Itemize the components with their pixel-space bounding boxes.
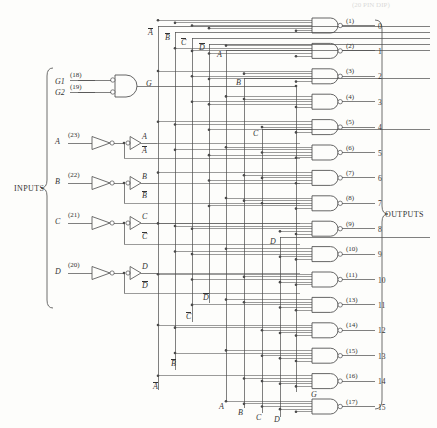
output-index-0: 0 bbox=[378, 22, 382, 31]
output-pin-11: (13) bbox=[346, 296, 358, 304]
faint-title: (20 PIN DIP) bbox=[352, 1, 390, 9]
output-pin-6: (7) bbox=[346, 169, 354, 177]
bus-label-bottom-b-bar: B bbox=[171, 359, 176, 368]
input-pin-b: (22) bbox=[68, 171, 80, 179]
bus-label-bottom-c-bar: C bbox=[186, 312, 191, 321]
output-pin-2: (3) bbox=[346, 67, 354, 75]
output-pin-4: (5) bbox=[346, 118, 354, 126]
input-pin-c: (21) bbox=[68, 211, 80, 219]
bus-label-bottom-a-bar: A bbox=[153, 382, 158, 391]
output-index-14: 14 bbox=[378, 377, 386, 386]
bus-label-foot-c: C bbox=[256, 414, 261, 422]
bus-label-top-c-bar: C bbox=[181, 38, 186, 47]
output-pin-3: (4) bbox=[346, 93, 354, 101]
signal-label-d-comp: D bbox=[142, 281, 148, 290]
input-pin-d: (20) bbox=[68, 261, 80, 269]
bus-label-foot-d: D bbox=[274, 416, 280, 424]
bus-label-top-d-bar: D bbox=[199, 43, 205, 52]
signal-label-c-true: C bbox=[142, 213, 147, 221]
output-pin-13: (15) bbox=[346, 347, 358, 355]
outputs-group-label: OUTPUTS bbox=[385, 210, 424, 219]
bus-label-foot-b: B bbox=[238, 409, 243, 417]
logic-diagram: (20 PIN DIP) INPUTS OUTPUTS G1 (18) G2 (… bbox=[0, 0, 437, 428]
signal-label-b-comp: B bbox=[142, 191, 147, 200]
output-index-8: 8 bbox=[378, 225, 382, 234]
input-label-c: C bbox=[55, 218, 60, 226]
input-label-b: B bbox=[55, 178, 60, 186]
input-pin-g2: (19) bbox=[70, 83, 82, 91]
input-pin-a: (23) bbox=[68, 131, 80, 139]
output-index-7: 7 bbox=[378, 199, 382, 208]
inputs-group-label: INPUTS bbox=[14, 184, 44, 193]
output-index-2: 2 bbox=[378, 72, 382, 81]
output-index-9: 9 bbox=[378, 250, 382, 259]
output-pin-9: (10) bbox=[346, 245, 358, 253]
signal-label-b-true: B bbox=[142, 173, 147, 181]
signal-label-a-comp: A bbox=[142, 146, 147, 155]
signal-label-a-true: A bbox=[142, 133, 147, 141]
output-pin-0: (1) bbox=[346, 17, 354, 25]
circuit-wiring bbox=[0, 0, 437, 428]
signal-label-c-comp: C bbox=[142, 232, 147, 241]
output-pin-8: (9) bbox=[346, 220, 354, 228]
output-pin-14: (16) bbox=[346, 372, 358, 380]
output-index-1: 1 bbox=[378, 47, 382, 56]
output-index-12: 12 bbox=[378, 326, 386, 335]
bus-label-enable-g: G bbox=[311, 391, 317, 399]
input-label-g2: G2 bbox=[55, 89, 65, 97]
bus-label-top-a-bar: A bbox=[148, 28, 153, 37]
output-index-4: 4 bbox=[378, 123, 382, 132]
output-pin-1: (2) bbox=[346, 42, 354, 50]
output-index-3: 3 bbox=[378, 98, 382, 107]
output-pin-15: (17) bbox=[346, 398, 358, 406]
enable-gate-output-label: G bbox=[146, 80, 152, 88]
input-label-a: A bbox=[55, 138, 60, 146]
output-index-13: 13 bbox=[378, 352, 386, 361]
bus-label-top-b-bar: B bbox=[165, 33, 170, 42]
bus-label-inner-c: C bbox=[253, 130, 258, 138]
output-index-15: 15 bbox=[378, 403, 386, 412]
output-pin-10: (11) bbox=[346, 271, 357, 279]
output-index-10: 10 bbox=[378, 276, 386, 285]
output-index-5: 5 bbox=[378, 149, 382, 158]
bus-label-inner-a: A bbox=[217, 51, 222, 59]
output-pin-12: (14) bbox=[346, 321, 358, 329]
bus-label-inner-d: D bbox=[270, 238, 276, 246]
bus-label-foot-a: A bbox=[219, 403, 224, 411]
output-index-11: 11 bbox=[378, 301, 385, 310]
input-pin-g1: (18) bbox=[70, 71, 82, 79]
bus-label-bottom-d-bar: D bbox=[203, 293, 209, 302]
input-label-d: D bbox=[55, 268, 61, 276]
output-pin-7: (8) bbox=[346, 194, 354, 202]
input-label-g1: G1 bbox=[55, 78, 65, 86]
signal-label-d-true: D bbox=[142, 263, 148, 271]
output-pin-5: (6) bbox=[346, 144, 354, 152]
bus-label-inner-b: B bbox=[236, 79, 241, 87]
output-index-6: 6 bbox=[378, 174, 382, 183]
